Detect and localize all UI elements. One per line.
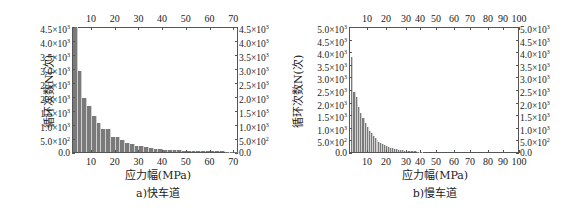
y-tick-mark xyxy=(235,111,238,112)
chart-panel-b: 0.00.05.0×1025.0×1021.0×1031.0×1031.5×10… xyxy=(285,0,573,212)
y-tick-label-right: 1.0×103 xyxy=(520,123,550,136)
y-axis-label: 循环次数N(次) xyxy=(289,55,305,128)
y-tick-label-right: 0.0 xyxy=(239,148,251,158)
x-tick-label-top: 60 xyxy=(449,13,459,24)
x-axis-label: 应力幅(MPa) xyxy=(402,166,468,182)
x-tick-label-top: 30 xyxy=(133,13,143,24)
x-tick-mark xyxy=(406,150,407,153)
x-tick-mark xyxy=(367,150,368,153)
x-tick-mark xyxy=(454,27,455,30)
y-tick-mark xyxy=(235,27,238,28)
y-tick-mark xyxy=(349,27,352,28)
plot-area xyxy=(349,27,519,153)
x-tick-label-top: 50 xyxy=(181,13,191,24)
x-tick-mark xyxy=(503,150,504,153)
y-tick-label-right: 2.5×103 xyxy=(520,85,550,98)
y-tick-label-right: 3.5×103 xyxy=(520,60,550,73)
y-tick-label-right: 2.0×103 xyxy=(239,92,269,105)
x-tick-label-top: 20 xyxy=(110,13,120,24)
y-tick-mark xyxy=(516,128,519,129)
y-tick-mark xyxy=(349,77,352,78)
y-tick-label-left: 4.5×103 xyxy=(40,22,70,35)
x-tick-label-top: 30 xyxy=(401,13,411,24)
x-tick-mark xyxy=(386,27,387,30)
y-tick-label-left: 3.5×103 xyxy=(317,60,347,73)
x-tick-mark xyxy=(115,150,116,153)
x-tick-label-bottom: 20 xyxy=(381,156,391,167)
y-tick-mark xyxy=(72,153,75,154)
y-tick-mark xyxy=(516,52,519,53)
y-tick-mark xyxy=(72,83,75,84)
x-tick-label-top: 40 xyxy=(415,13,425,24)
x-tick-label-top: 50 xyxy=(431,13,441,24)
x-tick-mark xyxy=(233,27,234,30)
x-tick-label-top: 90 xyxy=(498,13,508,24)
y-tick-mark xyxy=(72,97,75,98)
x-tick-mark xyxy=(406,27,407,30)
x-tick-mark xyxy=(519,27,520,30)
y-tick-label-left: 5.0×103 xyxy=(317,22,347,35)
x-tick-mark xyxy=(503,27,504,30)
y-tick-mark xyxy=(235,83,238,84)
y-tick-mark xyxy=(235,97,238,98)
y-tick-mark xyxy=(349,65,352,66)
y-tick-mark xyxy=(235,125,238,126)
x-tick-label-top: 10 xyxy=(86,13,96,24)
x-tick-label-bottom: 70 xyxy=(228,156,238,167)
x-tick-label-top: 40 xyxy=(157,13,167,24)
x-tick-mark xyxy=(519,150,520,153)
y-tick-label-right: 5.0×102 xyxy=(239,134,269,147)
y-tick-label-right: 1.5×103 xyxy=(520,110,550,123)
y-tick-mark xyxy=(516,103,519,104)
x-tick-label-top: 100 xyxy=(512,13,527,24)
y-tick-label-right: 4.0×103 xyxy=(239,36,269,49)
x-tick-label-top: 20 xyxy=(381,13,391,24)
x-tick-mark xyxy=(488,150,489,153)
x-tick-label-top: 70 xyxy=(465,13,475,24)
y-tick-mark xyxy=(235,153,238,154)
y-tick-mark xyxy=(349,52,352,53)
x-tick-mark xyxy=(488,27,489,30)
y-tick-mark xyxy=(349,115,352,116)
x-tick-mark xyxy=(470,150,471,153)
x-tick-label-bottom: 10 xyxy=(86,156,96,167)
chart-panel-a: 0.00.05.0×1025.0×1021.0×1031.0×1031.5×10… xyxy=(0,0,290,212)
y-tick-label-right: 5.0×102 xyxy=(520,135,550,148)
y-tick-label-left: 0.0 xyxy=(58,148,70,158)
x-tick-mark xyxy=(420,27,421,30)
x-tick-mark xyxy=(162,150,163,153)
y-tick-label-right: 1.0×103 xyxy=(239,120,269,133)
y-tick-mark xyxy=(349,153,352,154)
x-tick-label-top: 70 xyxy=(228,13,238,24)
y-tick-mark xyxy=(235,139,238,140)
y-tick-label-left: 1.5×103 xyxy=(317,110,347,123)
y-tick-label-left: 0.0 xyxy=(335,148,347,158)
x-tick-mark xyxy=(115,27,116,30)
y-tick-label-left: 4.5×103 xyxy=(317,35,347,48)
y-tick-mark xyxy=(516,65,519,66)
y-tick-label-left: 1.0×103 xyxy=(317,123,347,136)
y-tick-label-right: 4.5×103 xyxy=(520,35,550,48)
y-tick-mark xyxy=(235,41,238,42)
x-tick-mark xyxy=(367,27,368,30)
y-tick-mark xyxy=(72,27,75,28)
y-axis-label: 循环次数N(次) xyxy=(40,55,56,128)
y-tick-mark xyxy=(516,90,519,91)
x-tick-label-bottom: 80 xyxy=(483,156,493,167)
plot-area xyxy=(72,27,238,153)
x-tick-mark xyxy=(233,150,234,153)
y-tick-mark xyxy=(349,40,352,41)
x-tick-label-top: 60 xyxy=(205,13,215,24)
y-tick-mark xyxy=(72,111,75,112)
y-tick-mark xyxy=(349,103,352,104)
y-tick-mark xyxy=(72,41,75,42)
y-tick-label-left: 2.5×103 xyxy=(317,85,347,98)
y-tick-mark xyxy=(72,69,75,70)
x-tick-mark xyxy=(162,27,163,30)
x-tick-mark xyxy=(436,150,437,153)
x-tick-mark xyxy=(210,27,211,30)
y-tick-mark xyxy=(516,77,519,78)
x-tick-mark xyxy=(386,150,387,153)
x-tick-label-top: 80 xyxy=(483,13,493,24)
y-tick-mark xyxy=(349,90,352,91)
